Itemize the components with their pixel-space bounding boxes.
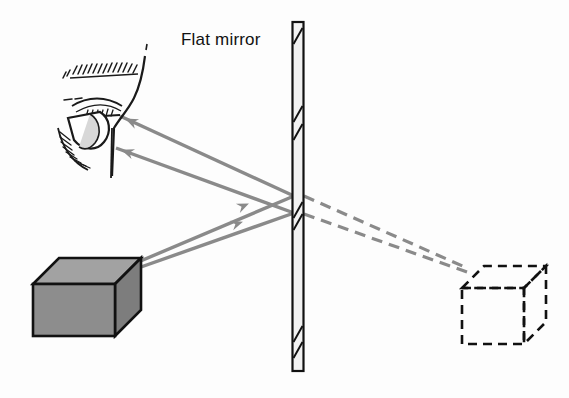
ray-virtual-upper <box>304 196 467 268</box>
object-cube-front-face <box>33 284 115 336</box>
eyelid-crease <box>76 105 121 112</box>
flat-mirror <box>293 22 304 371</box>
brow-inner-dashes <box>64 98 82 100</box>
object-cube <box>33 258 141 336</box>
ray-virtual-lower <box>304 214 467 272</box>
ray-reflected-lower-arrow <box>119 145 135 159</box>
flat-mirror-label: Flat mirror <box>181 30 261 50</box>
ray-incident-lower <box>124 213 294 273</box>
face-contour-tick <box>146 44 147 50</box>
image-cube <box>462 266 546 344</box>
image-cube-top-face <box>462 266 546 288</box>
ray-diagram <box>0 0 569 398</box>
figure-canvas: Flat mirror <box>0 0 569 398</box>
image-cube-front-face <box>462 288 524 344</box>
observer-eye <box>58 44 147 178</box>
image-cube-side-face <box>524 266 546 344</box>
ray-incident-upper <box>124 196 294 268</box>
nose-bridge-line <box>111 128 112 178</box>
ray-incident-upper-arrow <box>236 199 251 213</box>
mirror-body <box>293 22 304 371</box>
brow-base-line <box>70 74 138 78</box>
ray-reflected-upper <box>120 116 294 196</box>
ray-reflected-lower <box>116 148 294 213</box>
ray-reflected-upper-arrow <box>123 114 139 129</box>
